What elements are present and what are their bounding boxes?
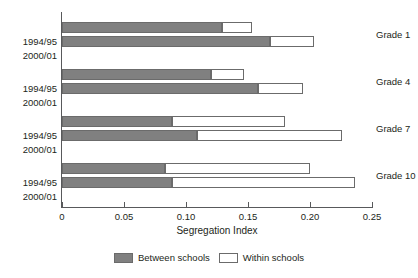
x-tick-mark [62, 202, 63, 208]
period-label-grade1-2000: 2000/01 [1, 50, 57, 61]
x-tick-mark [248, 202, 249, 208]
bar-segment-between [62, 36, 270, 47]
legend-swatch-between-icon [114, 253, 133, 263]
bar-segment-within [172, 177, 354, 188]
bar-segment-within [165, 163, 310, 174]
x-axis-title: Segregation Index [62, 225, 372, 236]
bar-segment-within [211, 69, 244, 80]
bar-segment-between [62, 69, 211, 80]
legend-label-within: Within schools [243, 252, 304, 263]
period-label-grade7-1994: 1994/95 [1, 130, 57, 141]
period-label-grade7-2000: 2000/01 [1, 144, 57, 155]
period-label-column: 1994/95 2000/01 1994/95 2000/01 1994/95 … [0, 14, 57, 206]
x-axis-line [61, 207, 373, 208]
x-tick-mark [186, 202, 187, 208]
x-tick-label: 0.15 [239, 211, 258, 223]
period-label-grade4-1994: 1994/95 [1, 83, 57, 94]
x-tick-label: 0 [59, 211, 64, 223]
x-tick-label: 0.10 [177, 211, 196, 223]
legend-swatch-within-icon [219, 253, 238, 263]
period-label-grade4-2000: 2000/01 [1, 97, 57, 108]
bar-segment-within [172, 116, 285, 127]
grade-label-10: Grade 10 [376, 170, 416, 182]
bar-segment-between [62, 22, 222, 33]
x-tick-mark [124, 202, 125, 208]
legend-label-between: Between schools [138, 252, 210, 263]
period-label-grade10-2000: 2000/01 [1, 191, 57, 202]
period-label-grade1-1994: 1994/95 [1, 36, 57, 47]
x-tick-mark [310, 202, 311, 208]
bar-segment-between [62, 177, 172, 188]
x-tick-mark [372, 202, 373, 208]
plot-area [62, 14, 372, 206]
segregation-index-chart: 1994/95 2000/01 1994/95 2000/01 1994/95 … [0, 0, 418, 278]
grade-label-4: Grade 4 [376, 76, 410, 88]
period-label-grade10-1994: 1994/95 [1, 177, 57, 188]
legend-item-within: Within schools [219, 252, 304, 263]
bar-segment-between [62, 83, 258, 94]
bar-segment-between [62, 130, 197, 141]
bar-segment-within [222, 22, 252, 33]
grade-label-1: Grade 1 [376, 29, 410, 41]
grade-label-column: Grade 1 Grade 4 Grade 7 Grade 10 [376, 14, 418, 206]
x-tick-label: 0.05 [115, 211, 134, 223]
bar-segment-between [62, 163, 165, 174]
grade-label-7: Grade 7 [376, 123, 410, 135]
x-tick-label: 0.20 [301, 211, 320, 223]
bar-segment-within [197, 130, 342, 141]
bar-segment-within [270, 36, 313, 47]
legend-item-between: Between schools [114, 252, 210, 263]
bar-segment-between [62, 116, 172, 127]
chart-legend: Between schools Within schools [0, 252, 418, 263]
x-tick-label: 0.25 [363, 211, 382, 223]
bar-segment-within [258, 83, 303, 94]
